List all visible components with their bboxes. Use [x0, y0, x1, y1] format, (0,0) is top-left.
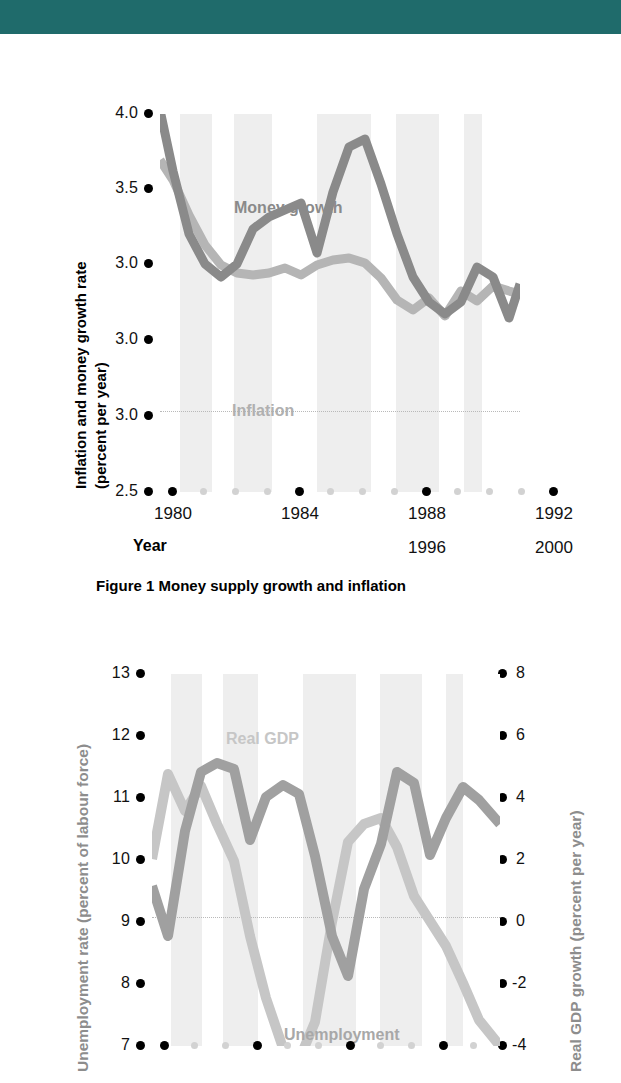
figure-2-y-tick-label-right: 6: [516, 726, 525, 744]
figure-2-y-tick-label-right: 0: [516, 912, 525, 930]
figure-1-x-tick-dot-minor: [518, 488, 525, 495]
figure-2-y-axis-title-left: Unemployment rate (percent of labour for…: [74, 744, 92, 1072]
figure-2-x-tick-dot-minor: [191, 1042, 198, 1049]
figure-1-x-tick-dot: [422, 487, 431, 496]
figure-2-y-tick-label-left: 13: [96, 664, 130, 682]
figure-1-y-axis-title-line1: Inflation and money growth rate: [72, 261, 89, 489]
figure-1-x-axis-title: Year: [133, 537, 167, 555]
figure-2-y-tick-label-left: 8: [96, 974, 130, 992]
figure-1-y-axis-title-line2: (percent per year): [92, 362, 109, 489]
figure-2-series-svg: [152, 674, 500, 1046]
figure-2-y-tick-dot-left: [136, 979, 145, 988]
figure-2-y-tick-label-left: 7: [96, 1036, 130, 1054]
figure-1-y-tick-label: 3.0: [96, 254, 138, 272]
figure-2-y-tick-label-right: 2: [516, 850, 525, 868]
figure-1-x-tick-dot-minor: [264, 488, 271, 495]
figure-1-x-tick-label: 1988: [387, 504, 467, 524]
figure-2-y-tick-dot-left: [136, 731, 145, 740]
figure-1-y-tick-label: 3.0: [96, 406, 138, 424]
figure-1-chart: Inflation and money growth rate (percent…: [0, 34, 621, 574]
figure-2-x-tick-dot: [439, 1041, 448, 1050]
figure-2-y-tick-dot-left: [136, 917, 145, 926]
figure-1-x-tick-dot-minor: [200, 488, 207, 495]
figure-2-y-tick-label-right: -4: [512, 1036, 527, 1054]
figure-2-y-tick-dot-left: [136, 1041, 145, 1050]
figure-1-y-tick-label: 4.0: [96, 104, 138, 122]
figure-1-x-tick-label: 1980: [133, 504, 213, 524]
figure-2-x-tick-dot-minor: [315, 1042, 322, 1049]
figure-1-y-tick-dot: [144, 411, 153, 420]
figure-2-x-tick-dot: [160, 1041, 169, 1050]
figure-2-y-axis-title-right: Real GDP growth (percent per year): [567, 810, 585, 1072]
figure-1-y-tick-label: 3.0: [96, 330, 138, 348]
figure-1-series-svg: [160, 114, 520, 492]
figure-1-x-tick-dot-minor: [359, 488, 366, 495]
figure-2-x-tick-dot-minor: [408, 1042, 415, 1049]
figure-2-y-tick-label-right: -2: [512, 974, 527, 992]
figure-2-y-tick-dot-left: [136, 669, 145, 678]
figure-1-x-tick-label: 1984: [260, 504, 340, 524]
figure-2-x-tick-dot: [253, 1041, 262, 1050]
figure-1-money-growth-label: Money growth: [234, 199, 342, 217]
figure-2-x-tick-dot-minor: [470, 1042, 477, 1049]
figure-1-caption: Figure 1 Money supply growth and inflati…: [96, 577, 406, 594]
figure-2-unemployment-label: Unemployment: [284, 1026, 400, 1044]
figure-2-y-tick-label-right: 8: [516, 664, 525, 682]
figure-1-y-tick-dot: [144, 335, 153, 344]
figure-2-y-tick-label-left: 10: [96, 850, 130, 868]
figure-1-x-tick-dot-minor: [327, 488, 334, 495]
figure-1-x-tick-label-1996: 1996: [387, 538, 467, 558]
figure-2-real-gdp-label: Real GDP: [226, 730, 299, 748]
figure-1-y-tick-label: 3.5: [96, 179, 138, 197]
figure-1-y-tick-dot: [144, 109, 153, 118]
figure-1-y-tick-dot: [144, 259, 153, 268]
page-top-band: [0, 0, 621, 34]
page-content: Inflation and money growth rate (percent…: [0, 34, 621, 1083]
figure-1-y-tick-dot: [144, 487, 153, 496]
figure-2-y-tick-dot-left: [136, 793, 145, 802]
figure-2-y-tick-label-left: 12: [96, 726, 130, 744]
figure-2-x-tick-dot-minor: [377, 1042, 384, 1049]
figure-1-plot-area: Money growth Inflation: [160, 114, 520, 492]
figure-1-x-tick-label-2000: 2000: [514, 538, 594, 558]
figure-2-x-tick-dot-minor: [222, 1042, 229, 1049]
figure-1-y-tick-label: 2.5: [96, 482, 138, 500]
figure-2-chart: Unemployment rate (percent of labour for…: [0, 612, 621, 1083]
figure-1-x-tick-dot-minor: [454, 488, 461, 495]
figure-1-x-tick-dot-minor: [486, 488, 493, 495]
figure-2-y-tick-label-left: 11: [96, 788, 130, 806]
figure-2-x-tick-dot-minor: [284, 1042, 291, 1049]
figure-2-y-tick-label-left: 9: [96, 912, 130, 930]
figure-2-x-tick-dot: [346, 1041, 355, 1050]
figure-1-x-tick-dot-minor: [232, 488, 239, 495]
figure-1-y-tick-dot: [144, 184, 153, 193]
figure-1-x-tick-dot: [295, 487, 304, 496]
figure-1-x-tick-label: 1992: [514, 504, 594, 524]
figure-1-x-tick-dot-minor: [391, 488, 398, 495]
figure-1-x-tick-dot: [168, 487, 177, 496]
figure-page: Inflation and money growth rate (percent…: [0, 0, 621, 1083]
figure-2-plot-area: Real GDP Unemployment: [152, 674, 500, 1046]
figure-2-y-tick-dot-left: [136, 855, 145, 864]
figure-1-x-tick-dot: [549, 487, 558, 496]
figure-1-inflation-label: Inflation: [232, 402, 294, 420]
figure-2-y-tick-label-right: 4: [516, 788, 525, 806]
